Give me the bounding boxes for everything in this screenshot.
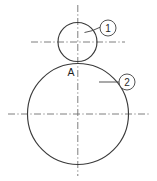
callout-1-label: 1 xyxy=(105,23,111,34)
callout-2-label: 2 xyxy=(124,77,130,88)
technical-drawing-figure: 1 2 A xyxy=(0,0,157,181)
drawing-canvas: 1 2 A xyxy=(0,0,157,181)
tangency-point-label: A xyxy=(67,66,74,78)
